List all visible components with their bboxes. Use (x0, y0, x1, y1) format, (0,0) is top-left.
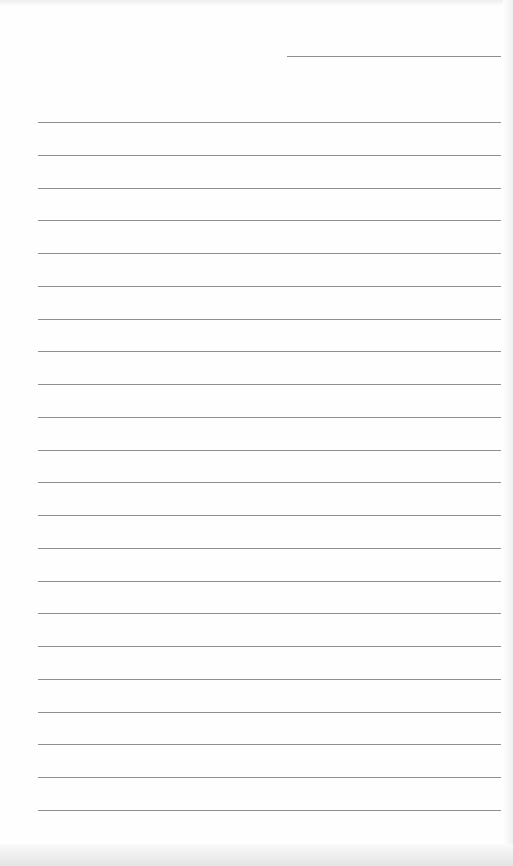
ruled-line (38, 613, 501, 614)
ruled-line (38, 417, 501, 418)
top-shadow (0, 0, 513, 6)
ruled-line (38, 810, 501, 811)
ruled-line (38, 777, 501, 778)
ruled-line (38, 482, 501, 483)
ruled-line (38, 319, 501, 320)
ruled-line (38, 450, 501, 451)
header-line (287, 56, 501, 57)
right-edge-shadow (503, 0, 513, 866)
ruled-line (38, 155, 501, 156)
ruled-line (38, 351, 501, 352)
ruled-line (38, 548, 501, 549)
ruled-line (38, 220, 501, 221)
ruled-line (38, 712, 501, 713)
ruled-line (38, 384, 501, 385)
ruled-line (38, 581, 501, 582)
ruled-line (38, 744, 501, 745)
ruled-line (38, 286, 501, 287)
bottom-shadow (0, 844, 513, 866)
ruled-line (38, 679, 501, 680)
ruled-line (38, 188, 501, 189)
ruled-line (38, 646, 501, 647)
ruled-line (38, 515, 501, 516)
lined-paper-page (0, 0, 513, 866)
ruled-line (38, 122, 501, 123)
ruled-line (38, 253, 501, 254)
